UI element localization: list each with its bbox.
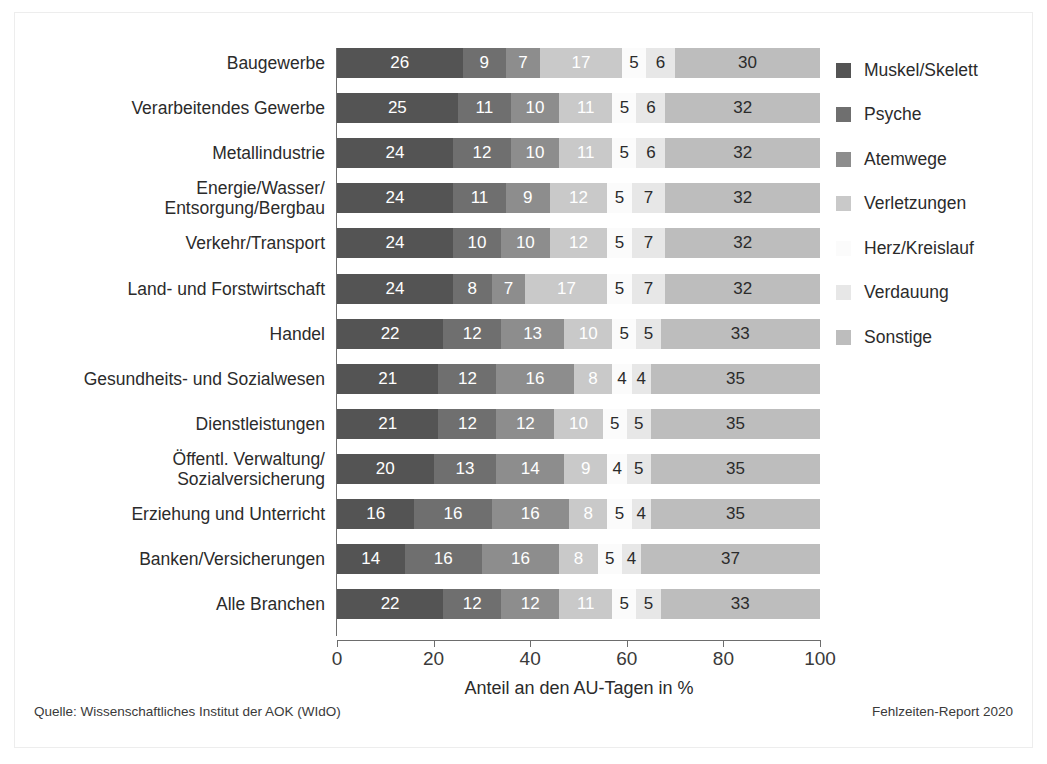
bar-segment: 8 xyxy=(453,274,492,304)
bar-segment-value: 26 xyxy=(390,53,409,73)
bar-segment-value: 35 xyxy=(726,369,745,389)
bar-segment: 10 xyxy=(453,228,501,258)
bar-row: Öffentl. Verwaltung/ Sozialversicherung2… xyxy=(337,454,820,484)
bar-segment: 5 xyxy=(607,228,631,258)
legend-label: Atemwege xyxy=(864,149,947,170)
bar-row: Dienstleistungen211212105535 xyxy=(337,409,820,439)
bar-segment-value: 13 xyxy=(523,324,542,344)
bar-segment: 5 xyxy=(607,499,631,529)
x-tick xyxy=(434,640,435,647)
category-label: Baugewerbe xyxy=(15,53,325,73)
source-note: Quelle: Wissenschaftliches Institut der … xyxy=(34,704,341,719)
bar-segment-value: 25 xyxy=(388,98,407,118)
legend-item: Sonstige xyxy=(836,315,1041,360)
x-tick xyxy=(723,640,724,647)
bar-segment: 11 xyxy=(559,138,612,168)
bar-segment-value: 16 xyxy=(511,549,530,569)
bar-segment: 37 xyxy=(641,544,820,574)
x-tick-label: 0 xyxy=(332,648,343,670)
bar-segment: 21 xyxy=(337,364,438,394)
bar-segment-value: 33 xyxy=(731,324,750,344)
x-tick xyxy=(530,640,531,647)
bar-segment: 10 xyxy=(564,319,612,349)
bar-segment-value: 5 xyxy=(615,504,624,524)
bar-segment-value: 32 xyxy=(733,233,752,253)
x-tick xyxy=(337,640,338,647)
bar-segment-value: 11 xyxy=(577,98,595,118)
bar-segment-value: 13 xyxy=(456,459,475,479)
bar-segment: 5 xyxy=(607,183,631,213)
bar-segment-value: 4 xyxy=(617,369,626,389)
bar-segment-value: 16 xyxy=(521,504,540,524)
bar-segment-value: 12 xyxy=(472,143,491,163)
bar-segment: 6 xyxy=(636,138,665,168)
bar-segment: 16 xyxy=(492,499,569,529)
bar-segment: 16 xyxy=(405,544,482,574)
bar-segment-value: 5 xyxy=(610,414,619,434)
bar-segment-value: 22 xyxy=(381,324,400,344)
bar-segment: 22 xyxy=(337,589,443,619)
bar-segment: 10 xyxy=(554,409,602,439)
category-label: Alle Branchen xyxy=(15,594,325,614)
legend-label: Verdauung xyxy=(864,282,949,303)
bar-segment-value: 8 xyxy=(583,504,592,524)
bar-segment: 4 xyxy=(607,454,626,484)
bar-segment-value: 5 xyxy=(620,98,629,118)
bar-segment-value: 7 xyxy=(504,279,513,299)
category-label: Handel xyxy=(15,324,325,344)
bar-segment-value: 8 xyxy=(588,369,597,389)
bar-segment-value: 7 xyxy=(644,233,653,253)
bar-segment-value: 21 xyxy=(378,369,397,389)
bar-segment: 5 xyxy=(607,274,631,304)
bar-segment-value: 5 xyxy=(620,143,629,163)
bar-segment: 5 xyxy=(598,544,622,574)
legend-swatch-icon xyxy=(836,196,851,211)
bar-segment-value: 32 xyxy=(733,98,752,118)
bar-segment: 12 xyxy=(443,319,501,349)
bar-segment: 5 xyxy=(612,589,636,619)
bar-segment-value: 12 xyxy=(463,594,482,614)
bar-segment: 5 xyxy=(622,48,646,78)
legend-swatch-icon xyxy=(836,152,851,167)
x-tick-label: 20 xyxy=(423,648,444,670)
legend-swatch-icon xyxy=(836,241,851,256)
bar-segment: 32 xyxy=(665,228,820,258)
bar-segment: 8 xyxy=(574,364,613,394)
bar-segment-value: 12 xyxy=(569,233,588,253)
bar-segment: 35 xyxy=(651,409,820,439)
bar-segment: 11 xyxy=(453,183,506,213)
x-axis-title: Anteil an den AU-Tagen in % xyxy=(337,678,821,699)
bar-segment: 24 xyxy=(337,183,453,213)
bar-segment-value: 9 xyxy=(480,53,489,73)
legend-item: Psyche xyxy=(836,93,1041,138)
category-label: Gesundheits- und Sozialwesen xyxy=(15,369,325,389)
bar-segment-value: 5 xyxy=(615,188,624,208)
bar-segment-value: 10 xyxy=(526,98,545,118)
bar-segment: 4 xyxy=(612,364,631,394)
legend-label: Psyche xyxy=(864,104,921,125)
bar-segment: 22 xyxy=(337,319,443,349)
bar-segment-value: 32 xyxy=(733,188,752,208)
bar-segment-value: 10 xyxy=(569,414,588,434)
bar-segment: 12 xyxy=(550,228,608,258)
bar-segment: 35 xyxy=(651,454,820,484)
bar-segment: 32 xyxy=(665,138,820,168)
bar-segment: 16 xyxy=(482,544,559,574)
bar-segment-value: 4 xyxy=(636,504,645,524)
bar-segment-value: 24 xyxy=(385,279,404,299)
bar-segment: 32 xyxy=(665,93,820,123)
bar-segment: 16 xyxy=(337,499,414,529)
bar-row: Land- und Forstwirtschaft2487175732 xyxy=(337,274,820,304)
bar-segment: 8 xyxy=(569,499,608,529)
bar-segment-value: 5 xyxy=(644,594,653,614)
bar-row: Banken/Versicherungen14161685437 xyxy=(337,544,820,574)
legend-label: Muskel/Skelett xyxy=(864,60,978,81)
bar-segment: 7 xyxy=(492,274,526,304)
x-axis-line xyxy=(337,640,821,641)
x-tick xyxy=(820,640,821,647)
bar-segment-value: 24 xyxy=(385,188,404,208)
bar-segment-value: 16 xyxy=(526,369,545,389)
bar-segment: 5 xyxy=(603,409,627,439)
bar-row: Baugewerbe2697175630 xyxy=(337,48,820,78)
bar-segment: 30 xyxy=(675,48,820,78)
